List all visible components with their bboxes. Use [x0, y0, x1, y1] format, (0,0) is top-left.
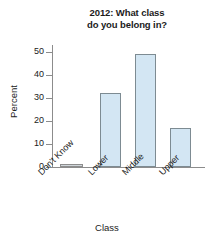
y-tick-label-wrap-30: 30 [0, 93, 44, 102]
x-axis-title: Class [0, 222, 214, 233]
bar-chart-figure: 2012: What class do you belong in? Perce… [0, 0, 214, 244]
y-tick-label-wrap-10: 10 [0, 139, 44, 148]
y-tick-label-50: 50 [0, 47, 44, 56]
y-tick-label-wrap-20: 20 [0, 116, 44, 125]
chart-title-line-2: do you belong in? [44, 19, 210, 31]
y-tick-label-10: 10 [0, 139, 44, 148]
chart-title: 2012: What class do you belong in? [44, 7, 210, 30]
plot-area [52, 46, 205, 167]
chart-title-line-1: 2012: What class [44, 7, 210, 19]
y-tick-label-20: 20 [0, 116, 44, 125]
y-tick-label-wrap-50: 50 [0, 47, 44, 56]
y-tick-label-30: 30 [0, 93, 44, 102]
y-tick-label-wrap-40: 40 [0, 70, 44, 79]
y-tick-label-40: 40 [0, 70, 44, 79]
bar-dont-know[interactable] [60, 164, 83, 167]
